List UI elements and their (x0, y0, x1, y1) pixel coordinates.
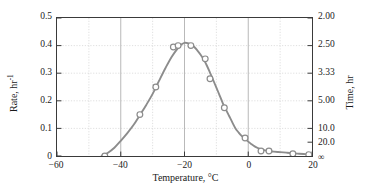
y-axis-left-tick-label: 0.5 (26, 12, 52, 22)
x-axis-tick-label: −60 (49, 161, 64, 171)
x-axis-title: Temperature, °C (0, 172, 371, 183)
y-axis-right-title: Time, hr (344, 75, 355, 109)
y-axis-left-tick-label: 0.1 (26, 124, 52, 134)
y-axis-left-title-text: Rate, hr (8, 80, 19, 112)
x-axis-tick-label: 0 (246, 161, 251, 171)
y-axis-left-title: Rate, hr-1 (7, 74, 19, 112)
y-axis-right-tick-label: 20.0 (318, 138, 335, 148)
chart-figure: Rate, hr-1 Time, hr Temperature, °C 00.1… (0, 0, 371, 191)
y-axis-right-tick-label: 10.0 (318, 124, 335, 134)
y-axis-left-tick-label: 0.4 (26, 40, 52, 50)
x-axis-tick-label: 20 (308, 161, 318, 171)
y-axis-left-tick-label: 0.3 (26, 68, 52, 78)
x-axis-tick-label: −40 (113, 161, 128, 171)
y-axis-right-tick-label: ∞ (318, 153, 324, 162)
y-axis-right-tick-label: 2.00 (318, 12, 335, 22)
data-curve-layer (57, 18, 312, 156)
y-axis-left-title-exponent: -1 (7, 74, 15, 80)
x-axis-tick-label: −20 (177, 161, 192, 171)
y-axis-right-tick-label: 3.33 (318, 68, 335, 78)
y-axis-left-tick-label: 0.2 (26, 96, 52, 106)
y-axis-right-tick-label: 2.50 (318, 40, 335, 50)
plot-area (56, 17, 313, 157)
y-axis-right-tick-label: 5.00 (318, 96, 335, 106)
